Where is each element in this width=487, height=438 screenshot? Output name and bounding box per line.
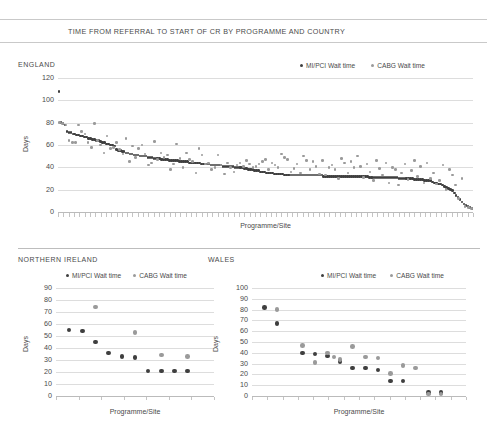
data-point [350, 366, 355, 371]
x-axis-tick [111, 213, 112, 217]
gridline [58, 78, 473, 79]
plot-canvas-northern-ireland [56, 288, 214, 396]
x-axis-tick [313, 213, 314, 217]
x-axis-tick [436, 213, 437, 217]
data-point [90, 146, 93, 149]
data-point [185, 152, 188, 155]
plot-area-england: Days Programme/Site 020406080100120 [18, 74, 478, 239]
data-point [264, 158, 267, 161]
data-point [267, 168, 270, 171]
x-axis-tick [462, 213, 463, 217]
data-point [274, 164, 277, 167]
data-point [401, 379, 406, 384]
x-axis-tick [79, 213, 80, 217]
x-axis-tick [117, 213, 118, 217]
figure-header: TIME FROM REFERRAL TO START OF CR BY PRO… [0, 19, 487, 43]
x-axis-tick [69, 213, 70, 217]
x-axis-tick [388, 213, 389, 217]
data-point [258, 163, 261, 166]
x-axis-tick [287, 213, 288, 217]
x-axis-tick [90, 213, 91, 217]
x-axis-tick [281, 213, 282, 217]
data-point [159, 353, 164, 358]
data-point [68, 139, 71, 142]
gridline [58, 100, 473, 101]
plot-area-northern-ireland: Days Programme/Site 0102030405060708090 [18, 284, 216, 434]
data-point [262, 305, 267, 310]
data-point [300, 343, 305, 348]
data-point [261, 160, 264, 163]
y-axis-tick-label: 70 [26, 308, 52, 315]
data-point [96, 139, 99, 142]
x-axis-tick [74, 213, 75, 217]
data-point [388, 379, 393, 384]
x-axis-tick [79, 397, 80, 400]
x-axis-tick [228, 213, 229, 217]
legend-item-mi-pci: MI/PCI Wait time [300, 62, 355, 69]
data-point [312, 160, 315, 163]
legend-wales: MI/PCI Wait time CABG Wait time [321, 272, 444, 279]
plot-canvas-england [58, 78, 473, 212]
x-axis-tick [420, 397, 421, 400]
gridline [252, 353, 466, 354]
plot-area-wales: Days Programme/Site 01020304050607080901… [208, 284, 480, 434]
x-axis-tick [292, 213, 293, 217]
data-point [106, 135, 109, 138]
legend-marker-mi-pci-icon [66, 274, 69, 277]
x-axis-tick [473, 213, 474, 217]
x-axis-tick [328, 397, 329, 400]
data-point [331, 164, 334, 167]
data-point [198, 147, 201, 150]
x-axis-tick [101, 213, 102, 217]
gridline [56, 360, 214, 361]
data-point [401, 363, 406, 368]
x-axis-tick [441, 213, 442, 217]
data-point [169, 168, 172, 171]
data-point [416, 175, 419, 178]
y-axis-tick-label: 90 [26, 284, 52, 291]
data-point [438, 179, 441, 182]
data-point [80, 329, 85, 334]
x-axis-tick [143, 213, 144, 217]
x-axis-label-england: Programme/Site [58, 222, 473, 229]
data-point [87, 141, 90, 144]
data-point [195, 172, 198, 175]
gridline [58, 167, 473, 168]
data-point [372, 179, 375, 182]
data-point [217, 154, 220, 157]
data-point [299, 172, 302, 175]
data-point [159, 369, 164, 374]
data-point [413, 159, 416, 162]
data-point [388, 371, 393, 376]
y-axis-tick-label: 100 [222, 284, 248, 291]
panel-rule-wales [208, 248, 480, 249]
x-axis-tick [372, 213, 373, 217]
data-point [275, 321, 280, 326]
data-point [245, 159, 248, 162]
data-point [185, 354, 190, 359]
x-axis-tick [405, 397, 406, 400]
data-point [74, 141, 77, 144]
x-axis-tick [266, 213, 267, 217]
data-point [356, 155, 359, 158]
data-point [426, 162, 429, 165]
data-point [137, 147, 140, 150]
x-axis-tick [452, 213, 453, 217]
gridline [252, 374, 466, 375]
x-axis-tick [457, 213, 458, 217]
data-point [404, 163, 407, 166]
data-point [363, 366, 368, 371]
data-point [376, 356, 381, 361]
gridline [56, 288, 214, 289]
x-axis-tick [146, 397, 147, 400]
data-point [439, 392, 444, 397]
data-point [407, 178, 410, 181]
data-point [226, 162, 229, 165]
y-axis-tick-label: 30 [26, 356, 52, 363]
data-point [179, 157, 182, 160]
data-point [131, 145, 134, 148]
x-axis-tick [175, 213, 176, 217]
x-axis-tick [319, 213, 320, 217]
x-axis-tick [404, 213, 405, 217]
x-axis-tick [169, 397, 170, 400]
